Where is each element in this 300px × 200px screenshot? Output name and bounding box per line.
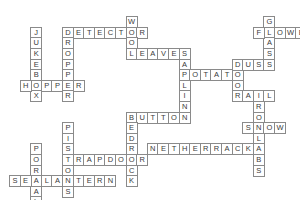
crossword-cell[interactable]: O: [168, 112, 180, 124]
crossword-cell[interactable]: O: [115, 154, 127, 166]
crossword-cell[interactable]: N: [104, 175, 116, 187]
crossword-cell[interactable]: W: [274, 122, 286, 134]
crossword-cell[interactable]: P: [51, 80, 63, 92]
crossword-cell[interactable]: K: [242, 143, 254, 155]
crossword-cell[interactable]: R: [62, 90, 74, 102]
crossword-cell[interactable]: K: [126, 175, 138, 187]
crossword-cell[interactable]: S: [263, 59, 275, 71]
crossword-cell[interactable]: N: [179, 112, 191, 124]
crossword-cell[interactable]: L: [30, 196, 42, 200]
crossword-cell[interactable]: E: [20, 175, 32, 187]
crossword-cell[interactable]: X: [30, 90, 42, 102]
crossword-grid: DETECTORWOLEAVESAPLINNOTATODORUSSGLASFOW…: [0, 0, 300, 200]
crossword-cell[interactable]: R: [136, 154, 148, 166]
crossword-cell[interactable]: F: [253, 27, 265, 39]
crossword-cell[interactable]: R: [136, 27, 148, 39]
crossword-cell[interactable]: W: [126, 16, 138, 28]
crossword-cell[interactable]: H: [20, 80, 32, 92]
crossword-cell[interactable]: E: [295, 27, 300, 39]
crossword-cell[interactable]: R: [73, 80, 85, 92]
crossword-cell[interactable]: S: [62, 186, 74, 198]
crossword-cell[interactable]: S: [253, 165, 265, 177]
crossword-cell[interactable]: S: [242, 122, 254, 134]
crossword-cell[interactable]: S: [263, 48, 275, 60]
crossword-cell[interactable]: L: [263, 90, 275, 102]
crossword-cell[interactable]: A: [51, 175, 63, 187]
